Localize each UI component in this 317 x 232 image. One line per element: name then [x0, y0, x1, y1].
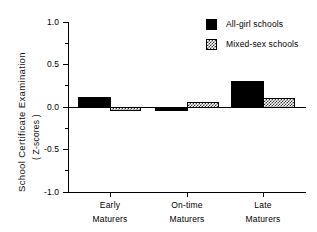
- y-minor-tick-0.75: [65, 43, 68, 44]
- bar-late-all-girl: [231, 81, 264, 108]
- y-tick-label--0.5: -0.5: [33, 144, 59, 154]
- x-label-late-line1: Late: [218, 200, 308, 210]
- y-axis-title: School Certificate Examination ( Z-score…: [0, 0, 44, 200]
- x-label-late: Late Maturers: [218, 200, 308, 224]
- x-tick-early: [110, 192, 111, 197]
- bar-late-mixed-sex: [263, 98, 295, 108]
- x-label-late-line2: Maturers: [218, 214, 308, 224]
- legend-label-mixed-sex: Mixed-sex schools: [226, 39, 298, 49]
- y-tick-label-0.0: 0.0: [33, 102, 59, 112]
- legend-swatch-solid-icon: [206, 19, 217, 30]
- y-tick-label--1.0: -1.0: [33, 187, 59, 197]
- bar-ontime-all-girl: [155, 107, 188, 111]
- y-minor-tick--0.75: [65, 170, 68, 171]
- y-minor-tick--0.25: [65, 128, 68, 129]
- x-tick-late: [263, 192, 264, 197]
- y-tick-1.0: [63, 22, 68, 23]
- x-tick-ontime: [187, 192, 188, 197]
- y-tick-0.0: [63, 107, 68, 108]
- y-minor-tick-0.25: [65, 85, 68, 86]
- y-tick--0.5: [63, 149, 68, 150]
- chart-legend: All-girl schools Mixed-sex schools: [206, 16, 298, 56]
- bar-ontime-mixed-sex: [187, 102, 219, 108]
- y-axis-title-main: School Certificate Examination: [16, 52, 27, 192]
- y-tick-label-1.0: 1.0: [33, 17, 59, 27]
- y-tick--1.0: [63, 192, 68, 193]
- bar-early-all-girl: [78, 97, 111, 108]
- legend-swatch-checker-icon: [206, 39, 217, 50]
- chart-figure: School Certificate Examination ( Z-score…: [0, 0, 317, 232]
- y-tick-0.5: [63, 64, 68, 65]
- legend-item-all-girl: All-girl schools: [206, 16, 298, 32]
- legend-item-mixed-sex: Mixed-sex schools: [206, 36, 298, 52]
- legend-label-all-girl: All-girl schools: [226, 19, 283, 29]
- bar-early-mixed-sex: [110, 107, 141, 111]
- y-tick-label-0.5: 0.5: [33, 59, 59, 69]
